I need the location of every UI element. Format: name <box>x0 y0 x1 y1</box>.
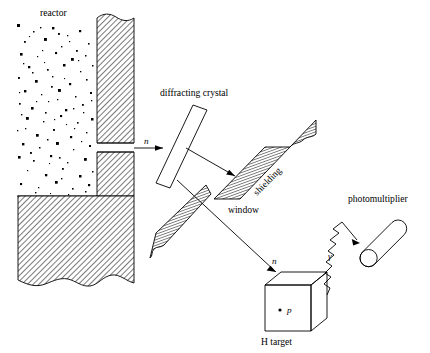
gamma-label: γ <box>328 251 332 261</box>
photomultiplier-label: photomultiplier <box>348 193 408 204</box>
reactor-base <box>16 194 138 290</box>
incident-neutron-arrow <box>134 145 163 151</box>
incident-neutron-label: n <box>144 136 149 146</box>
photomultiplier <box>360 220 407 267</box>
shielding-lower <box>145 180 225 265</box>
h-target-label: H target <box>261 336 292 347</box>
diffracting-crystal-label: diffracting crystal <box>160 87 229 98</box>
diffracted-neutron-label: n <box>272 256 277 266</box>
reactor-label: reactor <box>40 7 67 18</box>
reactor-wall-upper <box>95 10 137 150</box>
diagram-canvas: reactor diffracting crystal shielding wi… <box>0 0 430 353</box>
proton-dot <box>278 308 281 311</box>
gamma-arrowhead <box>352 239 360 245</box>
reactor-core <box>17 24 97 196</box>
window-label: window <box>228 204 259 215</box>
diffracting-crystal <box>156 105 207 188</box>
diffracted-beam-arrow <box>186 148 235 176</box>
photomultiplier-face <box>360 250 377 267</box>
reactor-core-speckles <box>17 24 94 195</box>
reactor-wall-lower <box>95 150 137 200</box>
collimator-slot <box>97 143 134 152</box>
h-target-cube <box>265 272 327 331</box>
proton-label: p <box>286 305 292 315</box>
diagram-svg: reactor diffracting crystal shielding wi… <box>0 0 430 353</box>
shielding-upper <box>200 110 330 210</box>
